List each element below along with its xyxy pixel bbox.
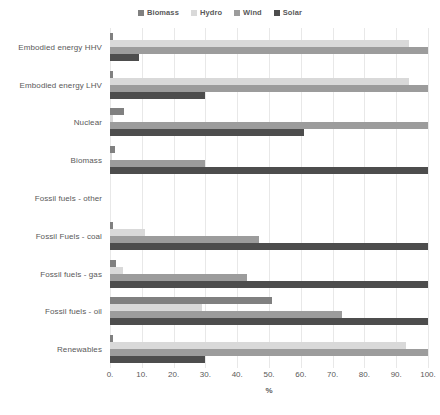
- plot-area: [110, 28, 428, 368]
- bar: [110, 318, 428, 325]
- bar-chart: BiomassHydroWindSolar Embodied energy HH…: [0, 0, 440, 415]
- bar: [110, 71, 113, 78]
- gridline: [428, 28, 429, 368]
- category-label: Fossil fuels - gas: [40, 269, 102, 278]
- category-label: Fossil fuels - oil: [45, 307, 102, 316]
- category-label: Biomass: [71, 156, 102, 165]
- value-axis-title: %: [110, 386, 428, 395]
- value-axis-tick-label: 50.: [263, 370, 274, 379]
- bar: [110, 335, 113, 342]
- legend-swatch-icon: [191, 10, 197, 16]
- bar: [110, 267, 123, 274]
- value-axis-tick-label: 20.: [168, 370, 179, 379]
- category-label: Fossil fuels - other: [35, 194, 102, 203]
- bar: [110, 304, 202, 311]
- legend-entry: Hydro: [191, 8, 222, 17]
- plot-area-wrapper: Embodied energy HHVEmbodied energy LHVNu…: [0, 28, 440, 368]
- value-axis-tick-label: 30.: [200, 370, 211, 379]
- category-label: Fossil Fuels - coal: [36, 231, 102, 240]
- bar: [110, 122, 428, 129]
- bar: [110, 47, 428, 54]
- bar: [110, 146, 115, 153]
- legend-label: Solar: [283, 8, 302, 17]
- bar: [110, 167, 428, 174]
- legend-label: Biomass: [147, 8, 179, 17]
- bar: [110, 92, 205, 99]
- bar: [110, 108, 124, 115]
- legend-label: Hydro: [200, 8, 222, 17]
- legend-entry: Solar: [274, 8, 302, 17]
- bar: [110, 260, 116, 267]
- value-axis-ticks: 0.10.20.30.40.50.60.70.80.90.100.: [110, 370, 428, 384]
- bar: [110, 78, 409, 85]
- legend-swatch-icon: [234, 10, 240, 16]
- legend-label: Wind: [243, 8, 262, 17]
- bar: [110, 54, 139, 61]
- value-axis-tick-label: 0.: [107, 370, 114, 379]
- bar: [110, 222, 113, 229]
- value-axis-tick-label: 60.: [295, 370, 306, 379]
- value-axis-tick-label: 90.: [391, 370, 402, 379]
- category-label: Embodied energy HHV: [18, 42, 102, 51]
- bar: [110, 33, 113, 40]
- bar: [110, 311, 342, 318]
- category-label: Embodied energy LHV: [20, 80, 102, 89]
- legend-entry: Biomass: [138, 8, 179, 17]
- legend-swatch-icon: [138, 10, 144, 16]
- bar: [110, 243, 428, 250]
- bar: [110, 160, 205, 167]
- bar: [110, 153, 112, 160]
- bar: [110, 40, 409, 47]
- value-axis-tick-label: 70.: [327, 370, 338, 379]
- value-axis-tick-label: 80.: [359, 370, 370, 379]
- bar: [110, 229, 145, 236]
- value-axis-tick-label: 100.: [420, 370, 436, 379]
- bar: [110, 356, 205, 363]
- chart-legend: BiomassHydroWindSolar: [0, 8, 440, 17]
- bar: [110, 129, 304, 136]
- bar: [110, 115, 113, 122]
- bar: [110, 342, 406, 349]
- legend-entry: Wind: [234, 8, 262, 17]
- bar: [110, 274, 247, 281]
- bar: [110, 236, 259, 243]
- value-axis-tick-label: 10.: [136, 370, 147, 379]
- category-axis-labels: Embodied energy HHVEmbodied energy LHVNu…: [0, 28, 108, 368]
- bar: [110, 349, 428, 356]
- value-axis-tick-label: 40.: [232, 370, 243, 379]
- bar: [110, 281, 428, 288]
- category-label: Nuclear: [74, 118, 102, 127]
- category-label: Renewables: [57, 345, 102, 354]
- bar: [110, 297, 272, 304]
- legend-swatch-icon: [274, 10, 280, 16]
- bar: [110, 85, 428, 92]
